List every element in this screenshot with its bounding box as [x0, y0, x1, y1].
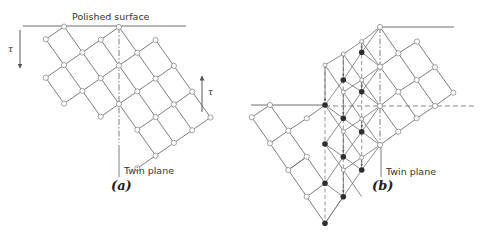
shear-stress-label-left: τ	[8, 44, 14, 54]
bond-line	[307, 157, 325, 184]
atom-displaced	[359, 129, 365, 135]
bond-line	[137, 91, 155, 117]
bond-line	[325, 54, 343, 65]
atom-open	[267, 141, 272, 146]
atom-open	[116, 24, 121, 29]
bond-line	[82, 78, 100, 91]
bond-line	[156, 66, 174, 79]
bond-line	[417, 42, 435, 68]
bond-line	[137, 130, 155, 156]
bond-line	[362, 67, 380, 80]
bond-line	[156, 79, 174, 105]
atom-open	[360, 117, 364, 121]
atom-open	[80, 88, 85, 93]
panel-caption-a: (a)	[111, 178, 132, 193]
bond-line	[325, 157, 343, 184]
bond-line	[288, 170, 306, 197]
bond-line	[362, 67, 380, 92]
twin-plane-label-a: Twin plane	[123, 165, 174, 176]
atom-open	[153, 153, 158, 158]
bond-line	[288, 131, 306, 157]
bond-line	[252, 117, 270, 143]
bond-line	[435, 67, 453, 92]
atom-open	[98, 76, 103, 81]
bond-line	[101, 27, 119, 40]
bond-line	[119, 53, 137, 66]
bond-line	[137, 117, 155, 130]
atom-open	[432, 65, 437, 70]
panel-a: Polished surface τ τ Twin plane (a)	[8, 11, 214, 193]
atom-open	[98, 37, 103, 42]
bond-line	[398, 53, 416, 80]
atom-open	[377, 64, 382, 69]
panel-b: Twin plane (b)	[249, 24, 477, 226]
twin-plane-label-b: Twin plane	[385, 166, 436, 177]
bond-line	[380, 92, 398, 106]
atom-open	[377, 24, 382, 29]
bond-line	[325, 80, 343, 105]
atom-open	[153, 38, 158, 43]
atom-open	[414, 116, 419, 121]
bond-line	[417, 80, 435, 106]
atom-displaced	[341, 194, 347, 200]
bond-line	[307, 183, 325, 196]
atom-open	[396, 89, 401, 94]
bond-line	[398, 118, 416, 131]
atom-open	[377, 103, 382, 108]
bond-line	[119, 104, 137, 130]
atom-open	[171, 63, 176, 68]
bond-line	[252, 105, 270, 117]
bond-line	[82, 40, 100, 53]
bond-line	[380, 106, 398, 132]
bond-line	[325, 144, 343, 157]
bond-line	[174, 130, 192, 143]
bond-line	[362, 80, 380, 106]
lattice-bonds-b	[252, 27, 454, 223]
bond-line	[174, 104, 192, 130]
atom-open	[190, 128, 195, 133]
bond-line	[380, 132, 398, 145]
atom-open	[62, 101, 67, 106]
atom-open	[360, 40, 364, 44]
bond-line	[64, 91, 82, 104]
bond-line	[325, 65, 343, 92]
bond-line	[64, 65, 82, 91]
atom-open	[153, 115, 158, 120]
atom-open	[304, 154, 309, 159]
bond-line	[101, 66, 119, 79]
atom-displaced	[341, 154, 347, 160]
bond-line	[174, 92, 192, 105]
shear-stress-label-right: τ	[208, 87, 214, 97]
bond-line	[417, 67, 435, 80]
atom-open	[98, 114, 103, 119]
atom-open	[396, 129, 401, 134]
atom-open	[432, 103, 437, 108]
bond-line	[174, 66, 192, 92]
bond-line	[288, 118, 306, 130]
atom-open	[341, 90, 345, 94]
atom-open	[153, 76, 158, 81]
atom-open	[135, 89, 140, 94]
atom-open	[286, 128, 291, 133]
atom-open	[360, 78, 364, 82]
bond-line	[101, 78, 119, 104]
bond-line	[156, 104, 174, 117]
bond-line	[325, 118, 343, 144]
bond-line	[362, 132, 380, 145]
atom-open	[304, 116, 309, 121]
bond-line	[362, 106, 380, 132]
atom-open	[43, 75, 48, 80]
atom-open	[341, 168, 345, 172]
atom-displaced	[322, 141, 328, 147]
atom-open	[396, 51, 401, 56]
bond-line	[435, 93, 453, 106]
bond-line	[119, 66, 137, 92]
bond-line	[325, 183, 343, 196]
bond-line	[362, 106, 380, 119]
atom-open	[116, 63, 121, 68]
atom-open	[135, 50, 140, 55]
bond-line	[137, 79, 155, 92]
bond-line	[362, 92, 380, 106]
atom-open	[80, 50, 85, 55]
bond-line	[362, 145, 380, 170]
